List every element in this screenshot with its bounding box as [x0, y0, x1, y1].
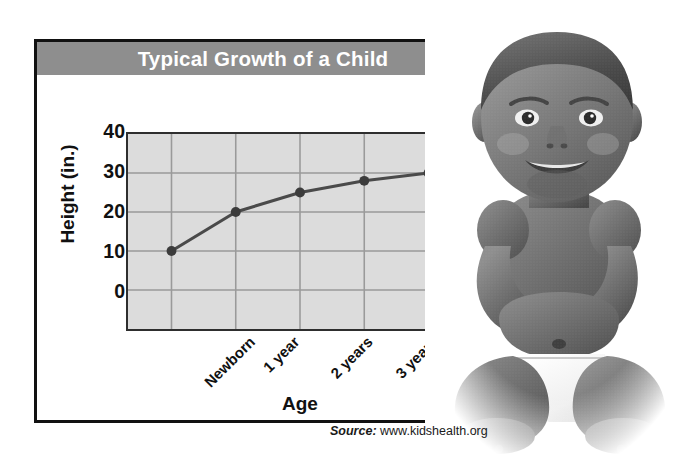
page-title: Typical Growth of a Child — [138, 47, 389, 71]
y-axis-tick-labels: 40 30 20 10 0 — [81, 75, 125, 420]
chart-title-banner: Typical Growth of a Child — [37, 42, 489, 75]
y-tick-label: 20 — [83, 202, 125, 222]
data-point-marker — [167, 246, 177, 256]
data-point-marker — [359, 176, 369, 186]
source-url: www.kidshealth.org — [380, 424, 488, 438]
y-tick-label: 10 — [83, 242, 125, 262]
baby-photo — [425, 18, 691, 456]
chart-card: Typical Growth of a Child Height (in.) 4… — [34, 39, 492, 423]
x-tick-label: 2 years — [327, 333, 376, 382]
x-tick-label: 1 year — [260, 333, 303, 376]
figure-root: Typical Growth of a Child Height (in.) 4… — [0, 0, 691, 472]
x-tick-label: Newborn — [201, 333, 258, 390]
x-axis-title: Age — [126, 393, 474, 415]
y-axis-title: Height (in.) — [57, 119, 79, 269]
data-point-marker — [231, 207, 241, 217]
y-tick-label: 0 — [83, 282, 125, 302]
data-point-marker — [295, 188, 305, 198]
source-label: Source: — [330, 424, 377, 438]
line-chart-canvas — [128, 134, 472, 329]
gridlines — [128, 134, 472, 329]
chart-body: Height (in.) 40 30 20 10 0 Newborn1 year… — [37, 75, 489, 420]
y-tick-label: 40 — [83, 122, 125, 142]
plot-area — [126, 132, 474, 331]
source-note: Source: www.kidshealth.org — [330, 424, 488, 438]
y-tick-label: 30 — [83, 162, 125, 182]
